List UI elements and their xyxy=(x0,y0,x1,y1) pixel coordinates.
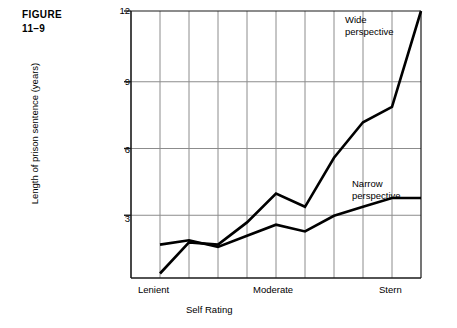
x-tick-label-lenient: Lenient xyxy=(138,284,169,295)
line-chart: 12 9 6 3 Length of prison sentence (year… xyxy=(0,0,457,328)
x-axis-title: Self Rating xyxy=(186,304,232,315)
series-line-narrow-perspective xyxy=(160,198,421,247)
series-line-wide-perspective xyxy=(160,11,421,274)
x-tick-label-stern: Stern xyxy=(379,284,402,295)
grid-lines xyxy=(131,11,421,278)
series-annotation-narrow-perspective: Narrow perspective xyxy=(352,178,401,202)
axis-frame xyxy=(124,11,421,278)
series-annotation-wide-perspective: Wide perspective xyxy=(345,14,394,38)
x-tick-label-moderate: Moderate xyxy=(253,284,293,295)
chart-canvas xyxy=(0,0,457,328)
